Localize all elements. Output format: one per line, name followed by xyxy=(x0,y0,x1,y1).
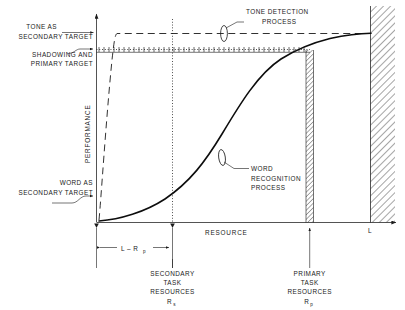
svg-text:RESOURCES: RESOURCES xyxy=(150,288,195,295)
svg-text:R: R xyxy=(304,298,309,305)
shadowing-primary-label: SHADOWING AND PRIMARY TARGET xyxy=(31,51,93,68)
word-as-secondary-label: WORD AS SECONDARY TARGET xyxy=(18,179,93,196)
svg-text:WORD: WORD xyxy=(251,165,273,172)
svg-text:RECOGNITION: RECOGNITION xyxy=(251,175,301,182)
svg-text:SECONDARY TARGET: SECONDARY TARGET xyxy=(18,189,93,196)
x-limit-label: L xyxy=(368,227,372,234)
tone-detection-balloon xyxy=(221,22,244,42)
primary-task-resources-marker: PRIMARY TASK RESOURCES R p xyxy=(287,228,332,307)
tone-as-secondary-label: TONE AS SECONDARY TARGET xyxy=(18,23,93,40)
svg-text:RESOURCES: RESOURCES xyxy=(287,288,332,295)
word-recognition-curve xyxy=(99,33,371,221)
dimension-label-sub: p xyxy=(143,249,146,254)
dimension-label-main: L – R xyxy=(121,245,138,252)
svg-text:s: s xyxy=(173,302,176,307)
svg-text:TONE DETECTION: TONE DETECTION xyxy=(246,8,309,15)
svg-text:TASK: TASK xyxy=(301,279,319,286)
svg-text:PROCESS: PROCESS xyxy=(262,18,296,25)
tone-detection-label: TONE DETECTION PROCESS xyxy=(246,8,309,25)
shadowing-primary-level-line xyxy=(97,47,311,52)
word-recognition-label: WORD RECOGNITION PROCESS xyxy=(251,165,301,191)
secondary-task-resources-marker: SECONDARY TASK RESOURCES R s xyxy=(150,259,195,307)
svg-text:p: p xyxy=(310,302,313,307)
x-axis-label: RESOURCE xyxy=(205,229,248,236)
primary-resource-hatched-band xyxy=(306,50,314,223)
svg-text:WORD AS: WORD AS xyxy=(60,179,93,186)
svg-text:TONE AS: TONE AS xyxy=(26,23,57,30)
word-as-secondary-leader xyxy=(52,196,93,203)
diagram-canvas: PERFORMANCE RESOURCE L xyxy=(0,0,405,310)
svg-text:PRIMARY: PRIMARY xyxy=(294,270,326,277)
tone-detection-curve xyxy=(99,34,371,221)
svg-text:TASK: TASK xyxy=(163,279,181,286)
x-axis-ticks xyxy=(94,224,175,229)
svg-text:SECONDARY TARGET: SECONDARY TARGET xyxy=(18,33,93,40)
svg-text:SHADOWING AND: SHADOWING AND xyxy=(32,51,93,58)
svg-text:PROCESS: PROCESS xyxy=(251,184,285,191)
svg-text:R: R xyxy=(167,298,172,305)
y-axis-label: PERFORMANCE xyxy=(84,104,91,163)
svg-text:SECONDARY: SECONDARY xyxy=(150,270,195,277)
word-recognition-balloon xyxy=(218,149,249,168)
limit-hatched-band xyxy=(371,6,396,223)
svg-text:PRIMARY TARGET: PRIMARY TARGET xyxy=(31,60,93,67)
dimension-l-minus-rp: L – R p xyxy=(97,228,173,268)
performance-resource-diagram: PERFORMANCE RESOURCE L xyxy=(0,0,405,310)
